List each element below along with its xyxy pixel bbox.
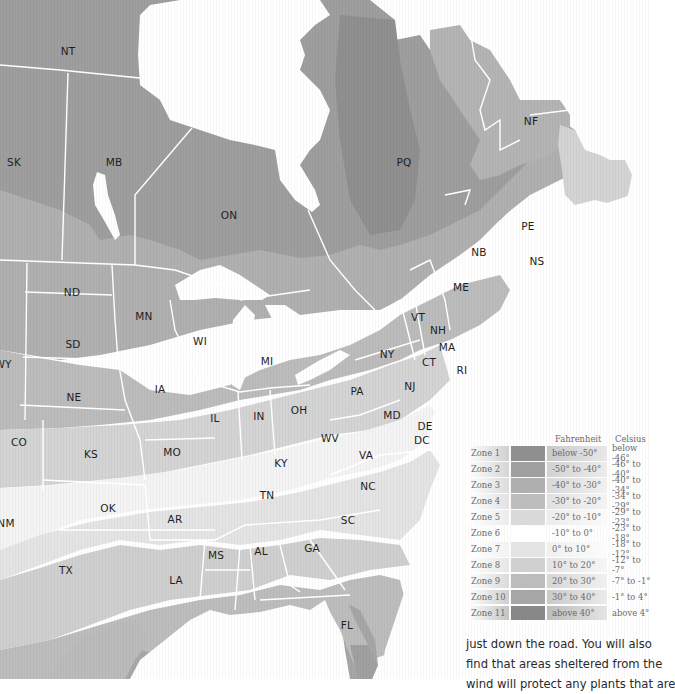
label-ar: AR — [168, 513, 183, 525]
label-de: DE — [417, 420, 432, 432]
zone-swatch — [511, 478, 545, 493]
label-mn: MN — [135, 310, 152, 322]
zone-fahrenheit: 20° to 30° — [547, 574, 607, 589]
zone-swatch — [511, 526, 545, 541]
label-nm: NM — [0, 517, 15, 529]
zone-fahrenheit: below -50° — [547, 446, 607, 461]
zone-swatch — [511, 590, 545, 605]
label-nb: NB — [471, 246, 486, 258]
body-text: just down the road. You will also find t… — [466, 634, 656, 694]
label-dc: DC — [414, 434, 430, 446]
zone-fahrenheit: 10° to 20° — [547, 558, 607, 573]
legend-row: Zone 810° to 20°-12° to -7° — [467, 558, 651, 573]
body-text-line: wind will protect any plants that are — [466, 674, 656, 694]
label-on: ON — [221, 209, 238, 221]
label-nj: NJ — [404, 380, 415, 392]
label-va: VA — [359, 449, 373, 461]
label-ny: NY — [380, 348, 395, 360]
zone-swatch — [511, 558, 545, 573]
label-pa: PA — [350, 385, 363, 397]
zone-fahrenheit: -10° to 0° — [547, 526, 607, 541]
label-in: IN — [253, 410, 264, 422]
label-ns: NS — [530, 255, 545, 267]
zone-fahrenheit: 0° to 10° — [547, 542, 607, 557]
zone-name: Zone 10 — [467, 590, 509, 605]
zone-name: Zone 9 — [467, 574, 509, 589]
label-fl: FL — [341, 619, 353, 631]
zone-name: Zone 7 — [467, 542, 509, 557]
label-mb: MB — [106, 156, 123, 168]
zone-name: Zone 6 — [467, 526, 509, 541]
label-sd: SD — [65, 338, 80, 350]
label-pe: PE — [521, 220, 534, 232]
zone-fahrenheit: above 40° — [547, 606, 607, 621]
body-text-line: find that areas sheltered from the — [466, 654, 656, 674]
zone-name: Zone 8 — [467, 558, 509, 573]
label-pq: PQ — [397, 156, 412, 168]
zone-swatch — [511, 462, 545, 477]
label-la: LA — [169, 574, 183, 586]
zone-legend: Fahrenheit Celsius Zone 1below -50°below… — [467, 432, 651, 622]
label-wv: WV — [321, 432, 339, 444]
label-ma: MA — [439, 341, 456, 353]
zone-name: Zone 1 — [467, 446, 509, 461]
label-mi: MI — [261, 355, 274, 367]
zone-celsius: -12° to -7° — [607, 558, 651, 573]
legend-row: Zone 920° to 30°-7° to -1° — [467, 574, 651, 589]
label-ne: NE — [67, 391, 82, 403]
zone-swatch — [511, 494, 545, 509]
label-oh: OH — [291, 404, 308, 416]
label-tx: TX — [59, 564, 73, 576]
zone-name: Zone 2 — [467, 462, 509, 477]
label-ri: RI — [457, 364, 468, 376]
zone-celsius: -7° to -1° — [607, 574, 651, 589]
label-ok: OK — [100, 502, 116, 514]
label-sc: SC — [341, 514, 355, 526]
label-ms: MS — [208, 549, 224, 561]
legend-row: Zone 1030° to 40°-1° to 4° — [467, 590, 651, 605]
label-ky: KY — [274, 457, 287, 469]
label-wi: WI — [193, 335, 207, 347]
body-text-line: just down the road. You will also — [466, 634, 656, 654]
label-ia: IA — [155, 383, 166, 395]
label-me: ME — [453, 281, 469, 293]
label-al: AL — [254, 545, 267, 557]
label-sk: SK — [7, 156, 21, 168]
label-nc: NC — [360, 480, 376, 492]
legend-row: Zone 11above 40°above 4° — [467, 606, 651, 621]
zone-name: Zone 4 — [467, 494, 509, 509]
legend-header-fahrenheit: Fahrenheit — [555, 434, 615, 444]
label-vt: VT — [411, 311, 425, 323]
zone-swatch — [511, 574, 545, 589]
label-il: IL — [210, 412, 219, 424]
zone-swatch — [511, 446, 545, 461]
label-tn: TN — [260, 489, 275, 501]
zone-fahrenheit: -50° to -40° — [547, 462, 607, 477]
label-nd: ND — [64, 286, 80, 298]
label-ks: KS — [84, 448, 98, 460]
label-co: CO — [11, 436, 27, 448]
label-nf: NF — [524, 115, 538, 127]
zone-name: Zone 3 — [467, 478, 509, 493]
zone-swatch — [511, 542, 545, 557]
label-md: MD — [383, 409, 401, 421]
zone-celsius: above 4° — [607, 606, 651, 621]
label-nt: NT — [61, 45, 76, 57]
zone-fahrenheit: -30° to -20° — [547, 494, 607, 509]
zone-fahrenheit: -40° to -30° — [547, 478, 607, 493]
zone-celsius: -1° to 4° — [607, 590, 651, 605]
zone-fahrenheit: 30° to 40° — [547, 590, 607, 605]
zone-swatch — [511, 606, 545, 621]
zone-fahrenheit: -20° to -10° — [547, 510, 607, 525]
label-ct: CT — [422, 356, 436, 368]
label-nh: NH — [430, 324, 446, 336]
label-wy: WY — [0, 358, 12, 370]
zone-name: Zone 5 — [467, 510, 509, 525]
zone-name: Zone 11 — [467, 606, 509, 621]
label-ga: GA — [304, 542, 320, 554]
zone-swatch — [511, 510, 545, 525]
label-mo: MO — [163, 446, 181, 458]
